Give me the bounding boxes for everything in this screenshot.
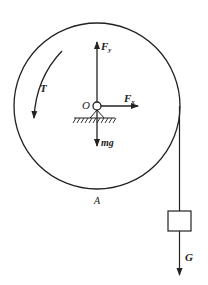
torque-arrow-icon xyxy=(34,51,62,118)
pivot-support-icon xyxy=(73,110,116,123)
free-body-diagram: Fy Fx O mg T A G xyxy=(0,0,208,285)
weight-g-label: G xyxy=(185,252,193,263)
force-fy-label: Fy xyxy=(101,41,111,54)
weight-mg-label: mg xyxy=(101,138,114,148)
pivot-label: O xyxy=(82,100,90,111)
hanging-block xyxy=(168,211,191,231)
pivot-pin-icon xyxy=(93,102,101,110)
force-fx-label: Fx xyxy=(124,93,135,106)
wheel-label: A xyxy=(94,196,100,206)
torque-label: T xyxy=(40,83,47,94)
